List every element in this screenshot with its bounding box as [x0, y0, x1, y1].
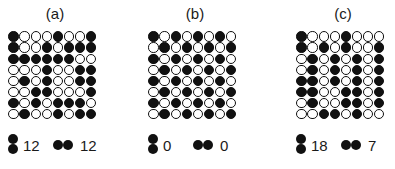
white-dot — [64, 109, 74, 119]
black-dot — [352, 98, 362, 108]
white-dot — [75, 87, 85, 97]
black-dot — [319, 109, 329, 119]
white-dot — [330, 31, 340, 41]
white-dot — [319, 98, 329, 108]
black-dot — [64, 42, 74, 52]
black-dot — [319, 42, 329, 52]
black-dot — [75, 42, 85, 52]
white-dot — [171, 65, 181, 75]
white-dot — [363, 98, 373, 108]
black-dot — [307, 98, 317, 108]
white-dot — [53, 42, 63, 52]
white-dot — [226, 98, 236, 108]
white-dot — [352, 42, 362, 52]
white-dot — [226, 76, 236, 86]
black-dot — [86, 65, 96, 75]
white-dot — [53, 65, 63, 75]
white-dot — [64, 65, 74, 75]
black-dot — [182, 42, 192, 52]
black-dot — [171, 31, 181, 41]
black-dot — [204, 109, 214, 119]
vertical-black-pair-icon — [148, 134, 158, 156]
panel-label: (c) — [293, 5, 393, 22]
vertical-pair-count: 0 — [163, 137, 171, 154]
white-dot — [193, 65, 203, 75]
black-dot — [352, 87, 362, 97]
white-dot — [204, 98, 214, 108]
white-dot — [204, 54, 214, 64]
black-dot — [8, 54, 18, 64]
black-dot — [182, 109, 192, 119]
black-dot — [159, 87, 169, 97]
black-dot — [182, 65, 192, 75]
white-dot — [53, 87, 63, 97]
black-dot — [171, 54, 181, 64]
white-dot — [319, 87, 329, 97]
black-dot — [204, 87, 214, 97]
black-dot — [53, 109, 63, 119]
black-dot — [53, 31, 63, 41]
vertical-pair-count: 18 — [311, 137, 328, 154]
white-dot — [363, 54, 373, 64]
black-dot — [374, 76, 384, 86]
white-dot — [8, 109, 18, 119]
black-dot — [42, 87, 52, 97]
horizontal-black-pair-icon — [193, 140, 215, 150]
black-dot — [341, 87, 351, 97]
white-dot — [8, 65, 18, 75]
black-dot — [86, 42, 96, 52]
panel-label: (a) — [5, 5, 105, 22]
white-dot — [53, 76, 63, 86]
black-dot — [171, 98, 181, 108]
black-dot — [8, 31, 18, 41]
black-dot — [341, 31, 351, 41]
white-dot — [19, 98, 29, 108]
black-dot — [159, 109, 169, 119]
black-dot — [53, 98, 63, 108]
dot-grid — [148, 31, 237, 120]
white-dot — [363, 31, 373, 41]
pair-count-legend: 12 12 — [8, 134, 118, 160]
black-dot — [64, 98, 74, 108]
black-dot — [352, 65, 362, 75]
black-dot — [330, 76, 340, 86]
black-dot — [171, 76, 181, 86]
black-dot — [193, 31, 203, 41]
white-dot — [182, 54, 192, 64]
horizontal-pair-count: 0 — [220, 137, 228, 154]
black-dot — [193, 76, 203, 86]
black-dot — [148, 98, 158, 108]
black-dot — [374, 98, 384, 108]
black-dot — [330, 54, 340, 64]
black-dot — [148, 31, 158, 41]
white-dot — [42, 98, 52, 108]
vertical-black-pair-icon — [8, 134, 18, 156]
black-dot — [75, 65, 85, 75]
black-dot — [53, 54, 63, 64]
white-dot — [75, 31, 85, 41]
white-dot — [319, 76, 329, 86]
black-dot — [31, 87, 41, 97]
black-dot — [193, 98, 203, 108]
white-dot — [319, 54, 329, 64]
white-dot — [159, 98, 169, 108]
white-dot — [307, 42, 317, 52]
white-dot — [86, 54, 96, 64]
white-dot — [148, 65, 158, 75]
panel-c: (c) 18 7 — [293, 0, 393, 169]
panel-label: (b) — [145, 5, 245, 22]
white-dot — [159, 54, 169, 64]
white-dot — [182, 98, 192, 108]
black-dot — [307, 76, 317, 86]
white-dot — [330, 87, 340, 97]
white-dot — [341, 65, 351, 75]
black-dot — [374, 87, 384, 97]
black-dot — [159, 65, 169, 75]
white-dot — [159, 76, 169, 86]
black-dot — [75, 109, 85, 119]
white-dot — [171, 87, 181, 97]
black-dot — [296, 76, 306, 86]
white-dot — [31, 109, 41, 119]
panel-a: (a) 12 12 — [5, 0, 105, 169]
white-dot — [182, 76, 192, 86]
